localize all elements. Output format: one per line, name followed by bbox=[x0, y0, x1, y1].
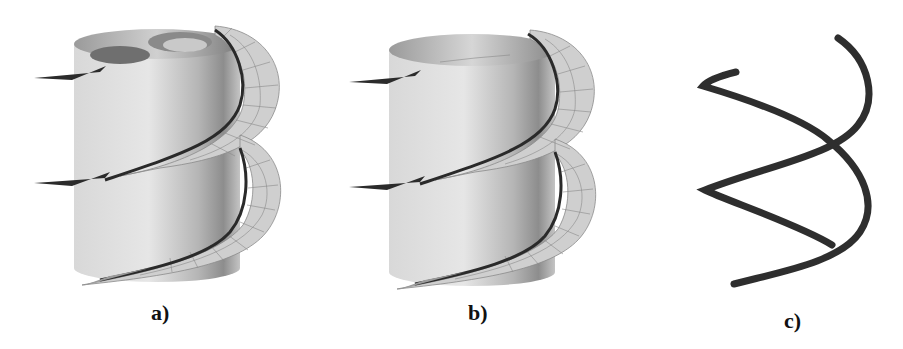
helix-tube-c bbox=[600, 0, 903, 349]
panel-label-b: b) bbox=[468, 300, 488, 326]
panel-label-c: c) bbox=[784, 308, 801, 334]
panel-b: b) bbox=[300, 0, 600, 349]
panel-c: c) bbox=[600, 0, 903, 349]
panel-a: a) bbox=[0, 0, 300, 349]
panel-label-a: a) bbox=[151, 300, 169, 326]
helical-blade-cylinder-a bbox=[0, 0, 300, 349]
helical-blade-cylinder-b bbox=[300, 0, 600, 349]
